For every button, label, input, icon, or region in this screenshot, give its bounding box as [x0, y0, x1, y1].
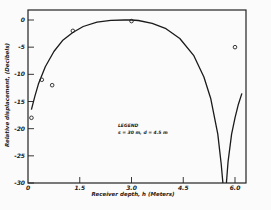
legend: LEGEND s = 30 m, d = 4.5 m — [118, 123, 168, 135]
y-axis-label: Relative displacement, (Decibels) — [4, 43, 11, 147]
y-tick-label: 0 — [21, 16, 25, 23]
plot-frame — [28, 10, 246, 183]
data-point — [30, 116, 34, 120]
y-tick-label: -10 — [14, 70, 25, 77]
x-tick-label: 6.0 — [230, 184, 241, 191]
y-tick-label: -30 — [14, 179, 25, 186]
legend-entry: s = 30 m, d = 4.5 m — [118, 130, 168, 135]
x-tick-label: 1.5 — [74, 184, 85, 191]
chart: 0-5-10-15-20-25-3001.53.04.56.0 Receiver… — [0, 0, 271, 210]
legend-title: LEGEND — [118, 123, 138, 128]
data-point — [233, 45, 237, 49]
x-tick-label: 3.0 — [126, 184, 137, 191]
series-line-theory-right-branch — [226, 93, 242, 183]
series-line-theory — [31, 20, 223, 183]
data-point — [50, 83, 54, 87]
y-tick-label: -20 — [14, 125, 25, 132]
y-tick-label: -15 — [14, 98, 25, 105]
y-tick-label: -25 — [14, 152, 25, 159]
y-tick-label: -5 — [18, 43, 25, 50]
x-tick-label: 0 — [26, 184, 30, 191]
x-axis-label: Receiver depth, h (Meters) — [91, 191, 174, 198]
x-tick-label: 4.5 — [178, 184, 189, 191]
